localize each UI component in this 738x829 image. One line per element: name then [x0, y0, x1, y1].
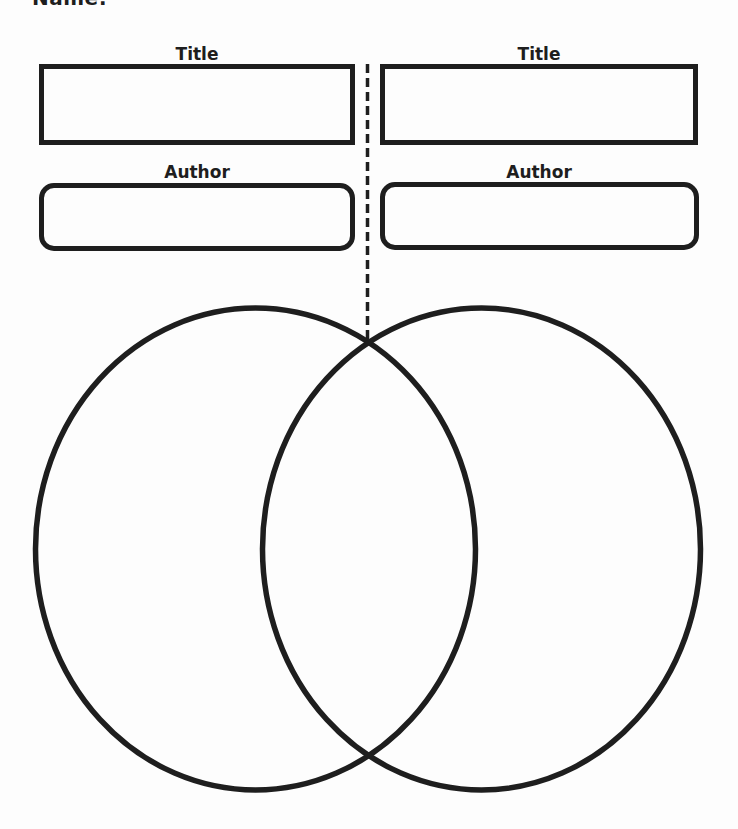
venn-right-circle[interactable]	[263, 308, 701, 790]
venn-diagram	[0, 0, 738, 829]
venn-left-circle[interactable]	[36, 308, 476, 790]
